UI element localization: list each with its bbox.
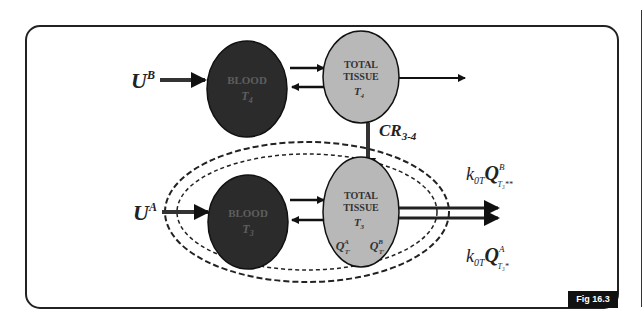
tissue-label-top-line1: TOTAL (344, 59, 378, 70)
figure-number-tag: Fig 16.3 (568, 291, 618, 308)
tissue-label-top-line2: TISSUE (343, 71, 379, 82)
page-margin-rule (641, 10, 642, 307)
blood-label-top: BLOOD (227, 74, 267, 86)
tissue-label-bottom-line2: TISSUE (343, 202, 379, 213)
figure-canvas: UB BLOOD T4 TOTAL TISSUE T4 CR3-4 (0, 0, 644, 317)
tissue-label-bottom-line1: TOTAL (344, 190, 378, 201)
blood-label-bottom: BLOOD (228, 207, 268, 219)
